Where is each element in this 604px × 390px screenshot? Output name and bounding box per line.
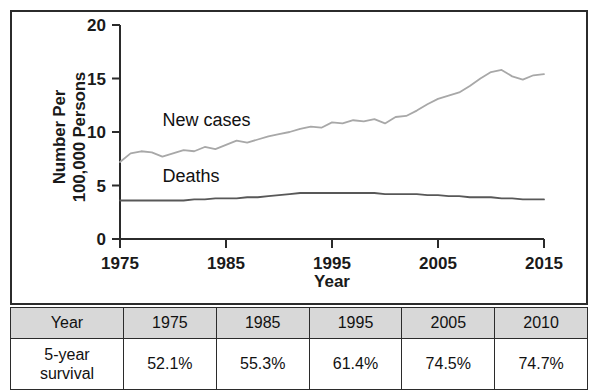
table-body-cell-0: 52.1% [124,339,217,390]
y-tick-label-2: 10 [87,123,106,142]
x-tick-label-1: 1985 [207,254,245,273]
x-tick-label-2: 1995 [313,254,351,273]
table-body-row-label-line-2: survival [11,364,123,383]
series-line-deaths [120,193,544,200]
table-header-cell-4: 2010 [495,308,588,339]
table-body-row: 5-year survival 52.1% 55.3% 61.4% 74.5% … [11,339,588,390]
table-body-cell-2: 61.4% [309,339,402,390]
chart-panel: Number Per 100,000 Persons 05101520 1975… [10,10,588,305]
table-header-row-label: Year [11,308,124,339]
line-chart-svg: 05101520 19751985199520052015 New casesD… [12,12,588,305]
table-header-cell-1: 1985 [216,308,309,339]
table-header-cell-2: 1995 [309,308,402,339]
x-tick-label-4: 2015 [525,254,563,273]
table-body-cell-1: 55.3% [216,339,309,390]
x-tick-label-0: 1975 [101,254,139,273]
x-axis-title: Year [314,272,350,291]
survival-data-table: Year 1975 1985 1995 2005 2010 5-year sur… [10,307,588,390]
table-body-row-label: 5-year survival [11,339,124,390]
table-header-cell-0: 1975 [124,308,217,339]
x-axis-ticks: 19751985199520052015 [101,239,563,273]
table-body-cell-4: 74.7% [495,339,588,390]
table-header-cell-3: 2005 [402,308,495,339]
series-label-deaths: Deaths [162,166,219,186]
series-label-new-cases: New cases [162,110,250,130]
y-tick-label-4: 20 [87,16,106,35]
y-tick-label-0: 0 [97,230,106,249]
y-tick-label-1: 5 [97,177,106,196]
table-header-row: Year 1975 1985 1995 2005 2010 [11,308,588,339]
y-tick-label-3: 15 [87,70,106,89]
y-axis-ticks: 05101520 [87,16,120,249]
table-body-row-label-line-1: 5-year [11,345,123,364]
table-body-cell-3: 74.5% [402,339,495,390]
x-tick-label-3: 2005 [419,254,457,273]
